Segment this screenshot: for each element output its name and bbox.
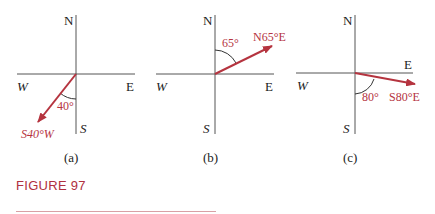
south-label-a: S — [80, 122, 87, 135]
angle-label-a: 40° — [57, 100, 74, 112]
caption-c: (c) — [343, 151, 357, 164]
angle-label-b: 65° — [222, 37, 239, 49]
east-label-b: E — [265, 80, 273, 93]
figure-label: FIGURE 97 — [16, 178, 86, 193]
south-label-c: S — [343, 122, 350, 135]
north-label-a: N — [64, 14, 73, 27]
west-label-a: W — [17, 80, 28, 93]
north-label-b: N — [203, 14, 212, 27]
divider-rule — [16, 211, 216, 212]
bearing-label-c: S80°E — [389, 91, 420, 103]
bearing-label-b: N65°E — [253, 31, 286, 43]
panel-c-axes — [296, 15, 415, 134]
east-label-c: E — [404, 58, 412, 71]
west-label-c: W — [297, 79, 308, 92]
caption-b: (b) — [203, 151, 218, 164]
angle-label-c: 80° — [362, 91, 379, 103]
west-label-b: W — [156, 80, 167, 93]
bearing-label-a: S40°W — [21, 128, 54, 140]
east-label-a: E — [126, 80, 134, 93]
panel-a-axes — [17, 15, 135, 134]
north-label-c: N — [343, 14, 352, 27]
caption-a: (a) — [64, 151, 78, 164]
south-label-b: S — [203, 122, 210, 135]
